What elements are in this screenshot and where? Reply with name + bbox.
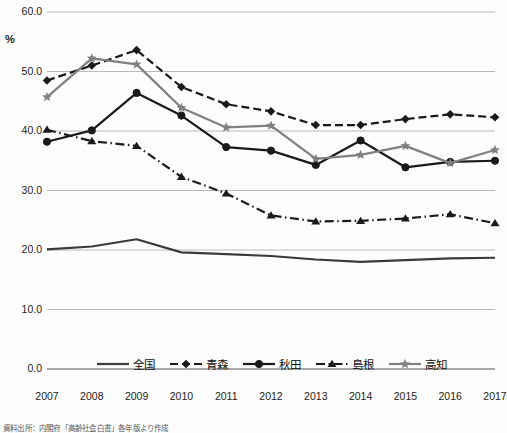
x-axis-tick-label: 2016 [428, 390, 472, 402]
data-point-marker [400, 359, 410, 368]
data-point-marker [181, 360, 190, 369]
legend-label: 島根 [352, 356, 374, 372]
data-point-marker [267, 147, 274, 154]
x-axis-tick-label: 2011 [204, 390, 248, 402]
x-axis-tick-label: 2017 [473, 390, 507, 402]
y-axis-tick-label: 10.0 [0, 303, 42, 315]
y-axis-tick-label: 20.0 [0, 243, 42, 255]
series-line [47, 130, 495, 223]
legend-item-全国[interactable]: 全国 [96, 356, 155, 372]
x-axis-tick-label: 2007 [25, 390, 69, 402]
legend-key-icon [242, 358, 276, 370]
data-point-marker [312, 121, 321, 130]
data-point-marker [255, 360, 262, 367]
data-point-marker [402, 164, 409, 171]
data-point-marker [357, 137, 364, 144]
data-point-marker [491, 113, 500, 122]
y-axis-tick-label: 40.0 [0, 124, 42, 136]
x-axis-tick-label: 2013 [294, 390, 338, 402]
legend-item-秋田[interactable]: 秋田 [242, 356, 301, 372]
x-axis-tick-label: 2008 [70, 390, 114, 402]
legend-key-icon [96, 358, 130, 370]
data-point-marker [401, 115, 410, 124]
data-point-marker [133, 89, 140, 96]
x-axis-tick-label: 2012 [249, 390, 293, 402]
legend-label: 高知 [425, 356, 447, 372]
x-axis-tick-label: 2014 [339, 390, 383, 402]
data-point-marker [267, 107, 276, 116]
source-note: 資料出所：内閣府「高齢社会白書」各年版より作成 [3, 422, 169, 433]
data-point-marker [490, 145, 500, 154]
series-line [47, 239, 495, 262]
legend-label: 青森 [206, 356, 228, 372]
series-秋田 [43, 89, 498, 171]
series-青森 [43, 46, 500, 130]
legend-item-高知[interactable]: 高知 [388, 356, 447, 372]
legend-key-icon [315, 358, 349, 370]
legend-label: 全国 [133, 356, 155, 372]
data-point-marker [223, 143, 230, 150]
y-axis-unit-label: % [5, 33, 15, 45]
data-point-marker [43, 76, 52, 85]
series-島根 [43, 126, 500, 227]
legend-key-icon [169, 358, 203, 370]
x-axis-tick-label: 2009 [115, 390, 159, 402]
series-全国 [47, 239, 495, 262]
data-point-marker [356, 150, 366, 159]
legend-item-島根[interactable]: 島根 [315, 356, 374, 372]
x-axis-tick-label: 2015 [383, 390, 427, 402]
x-axis-tick-label: 2010 [159, 390, 203, 402]
data-point-marker [221, 122, 231, 131]
series-line [47, 93, 495, 167]
data-point-marker [178, 112, 185, 119]
data-point-marker [446, 110, 455, 119]
data-point-marker [222, 100, 231, 109]
data-point-marker [491, 219, 500, 226]
data-point-marker [491, 157, 498, 164]
y-axis-tick-label: 0.0 [0, 362, 42, 374]
data-point-marker [43, 138, 50, 145]
legend-key-icon [388, 358, 422, 370]
data-point-marker [356, 121, 365, 130]
data-point-marker [43, 126, 52, 133]
chart-legend: 全国青森秋田島根高知 [47, 352, 495, 376]
data-point-marker [400, 141, 410, 150]
legend-item-青森[interactable]: 青森 [169, 356, 228, 372]
line-chart: % 60.050.040.030.020.010.00.0 2007200820… [0, 0, 507, 433]
legend-label: 秋田 [279, 356, 301, 372]
y-axis-tick-label: 60.0 [0, 5, 42, 17]
y-axis-tick-label: 50.0 [0, 65, 42, 77]
y-axis-tick-label: 30.0 [0, 184, 42, 196]
data-point-marker [88, 127, 95, 134]
